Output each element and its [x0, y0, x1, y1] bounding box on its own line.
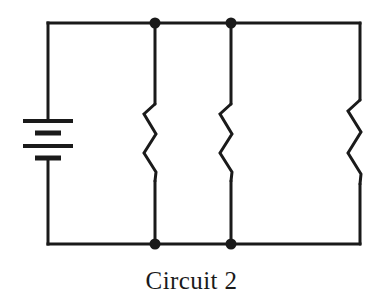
resistor-branch-1	[144, 23, 156, 244]
battery-symbol	[23, 121, 73, 158]
resistor-2-zigzag	[220, 104, 232, 181]
circuit-schematic-svg	[0, 0, 383, 304]
node-bottom-right-dot	[226, 239, 237, 250]
resistor-branch-3	[348, 23, 361, 244]
node-top-right-dot	[226, 18, 237, 29]
circuit-frame-wires	[48, 23, 360, 244]
resistor-branch-2	[220, 23, 232, 244]
resistor-1-zigzag	[144, 104, 156, 181]
node-bottom-left-dot	[150, 239, 161, 250]
circuit-diagram-figure: Circuit 2	[0, 0, 383, 304]
junction-dots	[150, 18, 237, 250]
resistor-3-zigzag	[348, 100, 361, 184]
node-top-left-dot	[150, 18, 161, 29]
figure-caption: Circuit 2	[0, 266, 383, 296]
